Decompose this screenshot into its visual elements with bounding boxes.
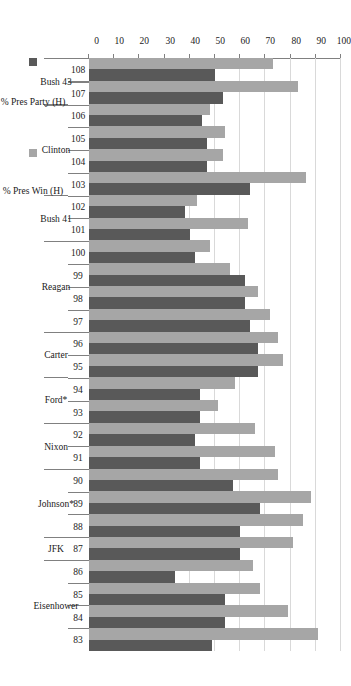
bar-group <box>89 583 341 606</box>
bar-pres-party <box>89 252 195 263</box>
bar-pres-party <box>89 389 200 400</box>
bar-pres-win <box>89 423 255 434</box>
president-group-label: Carter <box>44 332 68 378</box>
axis-tick-label: 0 <box>79 37 99 47</box>
category-label: 103 <box>68 173 89 196</box>
bar-pres-party <box>89 480 233 491</box>
bar-pres-party <box>89 457 200 468</box>
chart-legend: % Pres Win (H)% Pres Party (H) <box>28 58 38 221</box>
category-label: 105 <box>68 127 89 150</box>
category-label: 96 <box>68 332 89 355</box>
category-label: 95 <box>68 355 89 378</box>
bar-group <box>89 377 341 400</box>
bar-group <box>89 446 341 469</box>
bar-pres-win <box>89 491 311 502</box>
bar-group <box>89 58 341 81</box>
plot-area: 0102030405060708090100 <box>89 58 341 651</box>
legend-swatch <box>29 149 37 157</box>
bar-pres-win <box>89 377 235 388</box>
category-label: 97 <box>68 310 89 333</box>
bar-pres-win <box>89 514 303 525</box>
bar-pres-win <box>89 81 298 92</box>
bar-group <box>89 354 341 377</box>
bar-group <box>89 263 341 286</box>
bar-group <box>89 172 341 195</box>
bar-pres-win <box>89 537 293 548</box>
president-group-label: Nixon <box>44 423 68 469</box>
category-label: 83 <box>68 628 89 651</box>
bar-group <box>89 560 341 583</box>
bar-group <box>89 81 341 104</box>
bar-pres-party <box>89 115 202 126</box>
legend-item: % Pres Party (H) <box>28 58 38 135</box>
category-label: 86 <box>68 560 89 583</box>
president-group-label: Johnson* <box>44 469 68 537</box>
bar-pres-win <box>89 560 253 571</box>
axis-tick-label: 90 <box>306 37 326 47</box>
bar-group <box>89 240 341 263</box>
bar-pres-party <box>89 640 212 651</box>
bar-group <box>89 491 341 514</box>
bar-group <box>89 309 341 332</box>
bar-pres-win <box>89 218 248 229</box>
president-group-label: Clinton <box>44 105 68 196</box>
category-label: 106 <box>68 105 89 128</box>
category-label: 93 <box>68 401 89 424</box>
bar-pres-party <box>89 434 195 445</box>
bar-rows <box>89 58 341 651</box>
bar-pres-party <box>89 92 223 103</box>
bar-pres-win <box>89 104 210 115</box>
president-group-label: Reagan <box>44 241 68 332</box>
legend-item: % Pres Win (H) <box>28 149 38 221</box>
bar-pres-party <box>89 229 190 240</box>
bar-pres-win <box>89 149 223 160</box>
bar-pres-win <box>89 605 288 616</box>
bar-pres-win <box>89 126 225 137</box>
axis-tick-label: 100 <box>331 37 351 47</box>
bar-pres-win <box>89 286 258 297</box>
category-label: 87 <box>68 537 89 560</box>
bar-pres-party <box>89 526 240 537</box>
bar-group <box>89 286 341 309</box>
bar-group <box>89 423 341 446</box>
bar-pres-party <box>89 138 207 149</box>
legend-swatch <box>29 58 37 66</box>
category-label: 98 <box>68 287 89 310</box>
axis-tick-label: 60 <box>230 37 250 47</box>
axis-tick-label: 20 <box>129 37 149 47</box>
axis-tick-label: 10 <box>104 37 124 47</box>
bar-pres-win <box>89 354 283 365</box>
president-group-label: Bush 41 <box>44 195 68 241</box>
bar-pres-win <box>89 332 278 343</box>
axis-tick-label: 40 <box>180 37 200 47</box>
bar-group <box>89 126 341 149</box>
bar-group <box>89 537 341 560</box>
bar-pres-party <box>89 411 200 422</box>
president-group-label: Eisenhower <box>44 560 68 651</box>
category-label: 88 <box>68 514 89 537</box>
bar-pres-win <box>89 469 278 480</box>
bar-pres-party <box>89 617 225 628</box>
legend-label: % Pres Win (H) <box>3 186 63 196</box>
category-label: 104 <box>68 150 89 173</box>
bar-pres-party <box>89 594 225 605</box>
bar-pres-party <box>89 320 250 331</box>
bar-group <box>89 605 341 628</box>
bar-pres-party <box>89 297 245 308</box>
bar-pres-party <box>89 206 185 217</box>
axis-tick-label: 30 <box>155 37 175 47</box>
category-label: 99 <box>68 264 89 287</box>
bar-pres-party <box>89 571 175 582</box>
bar-pres-party <box>89 548 240 559</box>
bar-pres-win <box>89 263 230 274</box>
bar-group <box>89 149 341 172</box>
bar-group <box>89 332 341 355</box>
legend-label: % Pres Party (H) <box>1 97 66 107</box>
axis-tick-label: 70 <box>255 37 275 47</box>
bar-pres-win <box>89 172 306 183</box>
bar-pres-win <box>89 400 218 411</box>
bar-pres-party <box>89 503 260 514</box>
bar-pres-party <box>89 366 258 377</box>
bar-group <box>89 104 341 127</box>
bar-pres-party <box>89 69 215 80</box>
